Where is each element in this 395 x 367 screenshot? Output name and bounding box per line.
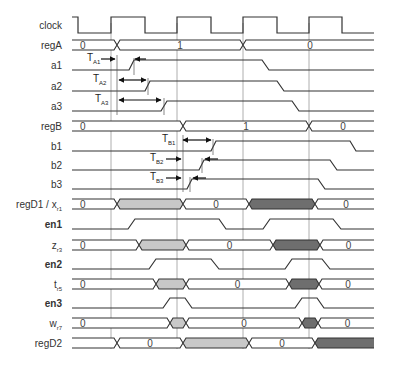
bus-value: 0 [80, 279, 86, 290]
timing-annotation-b3: TB3 [150, 171, 206, 184]
bus-segment-fill [72, 338, 117, 348]
timing-annotation-a1: TA1 [87, 52, 146, 65]
bus-value: 0 [307, 40, 313, 51]
signal-label: regD2 [35, 338, 63, 349]
signal-en1: en1 [45, 219, 374, 230]
signal-label: tr5 [54, 279, 63, 292]
signal-label: b3 [51, 179, 63, 190]
timing-label: TB1 [162, 133, 176, 146]
bus-value: 0 [80, 199, 86, 210]
bus-value: 0 [340, 121, 346, 132]
timing-label: TB2 [150, 152, 164, 165]
bus-segment-fill [249, 199, 315, 209]
bit-waveform [72, 219, 374, 229]
signal-label: zr3 [52, 240, 63, 253]
timing-label: TB3 [150, 171, 164, 184]
bit-waveform [72, 259, 374, 269]
bus-value: 0 [80, 318, 86, 329]
bus-segment-fill [139, 240, 186, 250]
signal-b1: b1 [51, 141, 374, 152]
bus-value: 1 [177, 40, 183, 51]
signal-label: regA [41, 40, 62, 51]
signal-label: regD1 / xr1 [16, 199, 63, 212]
signal-t: tr5000 [54, 279, 374, 293]
bus-value: 0 [235, 279, 241, 290]
bus-segment-fill [72, 199, 117, 209]
signal-label: regB [41, 121, 62, 132]
signal-regD2: regD200 [35, 338, 374, 350]
timing-annotation-a3: TA3 [95, 93, 161, 106]
bus-value: 0 [80, 40, 86, 51]
bus-value: 0 [279, 338, 285, 349]
signal-label: a1 [51, 60, 63, 71]
bus-segment-fill [72, 40, 117, 50]
signal-z: zr3000 [52, 240, 374, 254]
bus-segment-fill [273, 240, 320, 250]
timing-label: TA1 [87, 52, 101, 65]
signal-en2: en2 [45, 259, 374, 270]
bus-value: 0 [80, 121, 86, 132]
signal-label: b2 [51, 160, 63, 171]
signal-label: b1 [51, 141, 63, 152]
signal-en3: en3 [45, 298, 374, 309]
bus-segment-fill [72, 318, 170, 328]
signal-regD1: regD1 / xr1000 [16, 199, 374, 213]
bus-value: 0 [241, 318, 247, 329]
clock-waveform [72, 17, 374, 33]
bus-value: 0 [80, 240, 86, 251]
timing-annotation-a2: TA2 [93, 73, 146, 86]
signal-label: en1 [45, 219, 63, 230]
bit-waveform [72, 160, 374, 170]
timing-annotation-b1: TB1 [162, 133, 211, 146]
bus-segment-fill [183, 338, 249, 348]
signal-label: wr7 [48, 318, 62, 331]
signal-b2: b2 [51, 160, 374, 171]
bus-segment-fill [117, 199, 183, 209]
bus-value: 0 [345, 279, 351, 290]
bit-waveform [72, 298, 374, 308]
signal-w: wr7000 [48, 318, 374, 332]
bus-segment-fill [72, 121, 183, 131]
bus-segment-fill [156, 279, 186, 289]
bus-value: 0 [346, 240, 352, 251]
bus-value: 1 [243, 121, 249, 132]
timing-annotation-b2: TB2 [150, 152, 218, 165]
timing-diagram: clockregA010a1a2a3regB010b1b2b3regD1 / x… [0, 0, 395, 367]
bit-waveform [72, 141, 374, 151]
bus-value: 0 [345, 318, 351, 329]
timing-label: TA2 [93, 73, 107, 86]
signal-label: en2 [45, 259, 63, 270]
bus-value: 0 [227, 240, 233, 251]
signal-b3: b3 [51, 179, 374, 190]
signal-label: en3 [45, 298, 63, 309]
signal-label: clock [39, 20, 63, 31]
bus-value: 0 [213, 199, 219, 210]
bus-segment-fill [315, 338, 374, 348]
timing-label: TA3 [95, 93, 109, 106]
bit-waveform [72, 179, 374, 189]
signal-regB: regB010 [41, 121, 374, 133]
bus-value: 0 [147, 338, 153, 349]
signal-regA: regA010 [41, 40, 374, 52]
timing-diagram-canvas: clockregA010a1a2a3regB010b1b2b3regD1 / x… [0, 0, 395, 367]
signal-label: a2 [51, 81, 63, 92]
signal-clock: clock [39, 17, 374, 33]
signal-label: a3 [51, 101, 63, 112]
bus-segment-fill [289, 279, 319, 289]
bus-value: 0 [343, 199, 349, 210]
